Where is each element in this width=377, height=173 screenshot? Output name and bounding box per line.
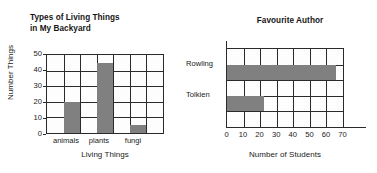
bar-chart-living-things: Types of Living Things in My Backyard Nu… — [0, 0, 186, 173]
bar-rowling — [227, 65, 336, 81]
left-tickmark-0 — [43, 134, 46, 135]
left-ytick-40: 40 — [28, 65, 42, 74]
left-gridline-v-5 — [130, 55, 131, 133]
right-chart-x-axis-label: Number of Students — [204, 150, 366, 159]
right-xtick-0: 0 — [220, 130, 233, 139]
left-gridline-v-2 — [80, 55, 81, 133]
right-chart-plot-area — [226, 48, 344, 128]
bar-fungi — [130, 125, 147, 133]
right-xtick-50: 50 — [303, 130, 316, 139]
right-xtick-20: 20 — [253, 130, 266, 139]
left-gridline-v-4 — [113, 55, 114, 133]
left-chart-title: Types of Living Things in My Backyard — [30, 13, 180, 34]
right-gridline-v-30 — [277, 49, 278, 127]
right-category-tolkien: Tolkien — [186, 90, 224, 99]
right-gridline-v-50 — [310, 49, 311, 127]
bar-chart-favourite-author: Favourite Author Rowling Tolkien 0 10 — [186, 0, 377, 173]
left-ytick-10: 10 — [28, 113, 42, 122]
left-ytick-20: 20 — [28, 97, 42, 106]
left-ytick-30: 30 — [28, 81, 42, 90]
left-category-fungi: fungi — [112, 136, 154, 145]
right-xtick-70: 70 — [336, 130, 349, 139]
right-xtick-30: 30 — [270, 130, 283, 139]
right-category-rowling: Rowling — [186, 59, 224, 68]
left-chart-plot-area — [46, 54, 164, 134]
right-gridline-h-4 — [227, 111, 343, 112]
left-chart-y-axis-label: Number Things — [6, 37, 15, 109]
bar-animals — [64, 102, 81, 133]
right-chart-title: Favourite Author — [210, 16, 370, 27]
worksheet-page: Types of Living Things in My Backyard Nu… — [0, 0, 377, 173]
right-xtick-60: 60 — [319, 130, 332, 139]
left-gridline-v-6 — [146, 55, 147, 133]
right-gridline-v-20 — [260, 49, 261, 127]
left-ytick-50: 50 — [28, 49, 42, 58]
right-gridline-v-10 — [244, 49, 245, 127]
right-gridline-v-60 — [326, 49, 327, 127]
right-xtick-40: 40 — [286, 130, 299, 139]
bar-plants — [97, 63, 114, 133]
left-ytick-0: 0 — [28, 129, 42, 138]
right-gridline-v-40 — [293, 49, 294, 127]
right-gridline-h-2 — [227, 80, 343, 81]
left-chart-x-axis-label: Living Things — [46, 150, 164, 159]
bar-tolkien — [227, 96, 264, 112]
right-xtick-10: 10 — [237, 130, 250, 139]
